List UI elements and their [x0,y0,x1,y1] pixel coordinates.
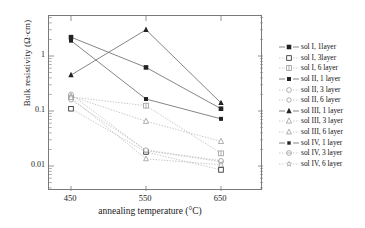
legend-item[interactable]: sol II, 3 layer [278,84,365,95]
plot-svg [49,16,263,191]
legend-item[interactable]: sol I, 1layer [278,42,365,53]
legend-label: sol II, 6 layer [300,95,340,105]
legend-marker-filled-square-icon [278,42,300,52]
legend-item[interactable]: sol III, 1 layer [278,106,365,117]
legend-marker-open-square-icon [278,53,300,63]
legend-marker-open-circle-small-icon [278,95,300,105]
legend-item[interactable]: sol II, 1 layer [278,74,365,85]
x-tick-label-450: 450 [50,193,90,203]
legend-item[interactable]: sol IV, 3 layer [278,148,365,159]
legend-marker-filled-square-small-icon [278,74,300,84]
plot-area [48,15,262,190]
legend-label: sol IV, 3 layer [300,148,342,158]
legend-marker-filled-triangle-icon [278,106,300,116]
legend-label: sol III, 1 layer [300,106,343,116]
legend: sol I, 1layersol I, 3layersol I, 6 layer… [278,42,365,169]
legend-item[interactable]: sol I, 3layer [278,53,365,64]
legend-label: sol I, 3layer [300,53,336,63]
legend-item[interactable]: sol III, 6 layer [278,127,365,138]
legend-marker-crossed-circle-icon [278,148,300,158]
x-tick-label-550: 550 [125,193,165,203]
y-tick-label-0.01: 0.01 [19,161,45,169]
y-axis-tick-labels: 1 0.1 0.01 [16,0,45,228]
legend-item[interactable]: sol IV, 6 layer [278,159,365,170]
legend-marker-crossed-square-icon [278,63,300,73]
legend-label: sol II, 3 layer [300,85,340,95]
legend-item[interactable]: sol II, 6 layer [278,95,365,106]
legend-marker-filled-square-tiny-icon [278,138,300,148]
legend-label: sol III, 3 layer [300,116,343,126]
legend-label: sol I, 6 layer [300,63,338,73]
legend-marker-open-circle-icon [278,85,300,95]
legend-marker-open-triangle-icon [278,116,300,126]
figure-container: Bulk resistivity (Ω·cm) 1 0.1 0.01 450 5… [0,0,365,228]
legend-label: sol IV, 1 layer [300,138,342,148]
legend-label: sol II, 1 layer [300,74,340,84]
legend-label: sol I, 1layer [300,42,336,52]
legend-marker-star-icon [278,159,300,169]
legend-item[interactable]: sol I, 6 layer [278,63,365,74]
legend-label: sol III, 6 layer [300,127,343,137]
x-axis-title: annealing temperature (°C) [0,206,300,216]
x-tick-label-650: 650 [200,193,240,203]
y-tick-label-1: 1 [19,51,45,59]
legend-item[interactable]: sol III, 3 layer [278,116,365,127]
legend-marker-open-triangle-small-icon [278,127,300,137]
y-tick-label-0.1: 0.1 [19,106,45,114]
legend-item[interactable]: sol IV, 1 layer [278,137,365,148]
legend-label: sol IV, 6 layer [300,159,342,169]
